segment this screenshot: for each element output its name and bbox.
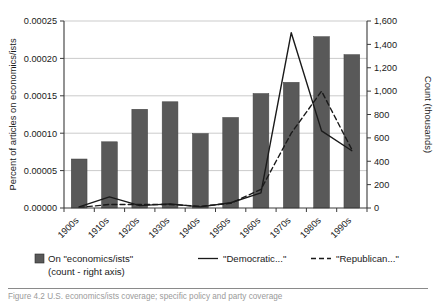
x-category-label: 1920s	[116, 215, 141, 240]
x-category-label: 1990s	[328, 215, 353, 240]
left-axis-ticks: 0.000000.000050.000100.000150.000200.000…	[24, 16, 64, 213]
y-axis-title-right: Count (thousands)	[423, 76, 434, 153]
legend-label-republican: "Republican..."	[336, 253, 399, 264]
bar	[283, 82, 299, 208]
right-tick-label: 1,600	[374, 16, 397, 26]
left-tick-label: 0.00010	[24, 129, 57, 139]
right-tick-label: 200	[374, 180, 389, 190]
x-category-label: 1950s	[207, 215, 232, 240]
left-tick-label: 0.00020	[24, 54, 57, 64]
figure-caption: Figure 4.2 U.S. economics/ists coverage;…	[8, 292, 432, 301]
left-tick-label: 0.00025	[24, 16, 57, 26]
x-category-label: 1980s	[298, 215, 323, 240]
right-tick-label: 1,400	[374, 40, 397, 50]
bar	[132, 109, 148, 208]
bar	[192, 134, 208, 208]
figure-container: 0.000000.000050.000100.000150.000200.000…	[0, 0, 436, 304]
legend: On "economics/ists" (count - right axis)…	[35, 253, 399, 277]
left-tick-label: 0.00015	[24, 91, 57, 101]
right-tick-label: 1,000	[374, 86, 397, 96]
bar	[71, 159, 87, 208]
x-category-label: 1910s	[86, 215, 111, 240]
x-category-label: 1930s	[147, 215, 172, 240]
legend-label-bars-line2: (count - right axis)	[48, 266, 125, 277]
bar	[223, 117, 239, 208]
left-tick-label: 0.00000	[24, 203, 57, 213]
economics-coverage-chart: 0.000000.000050.000100.000150.000200.000…	[0, 0, 436, 304]
right-tick-label: 800	[374, 110, 389, 120]
right-tick-label: 400	[374, 157, 389, 167]
x-category-label: 1970s	[268, 215, 293, 240]
x-axis-ticks: 1900s1910s1920s1930s1940s1950s1960s1970s…	[56, 208, 367, 240]
x-category-label: 1900s	[56, 215, 81, 240]
bar	[162, 102, 178, 208]
y-axis-title-left: Percent of articles on economics/ists	[7, 38, 18, 190]
right-tick-label: 0	[374, 203, 379, 213]
legend-swatch-bar-icon	[35, 254, 44, 263]
x-category-label: 1940s	[177, 215, 202, 240]
bar	[344, 55, 360, 208]
left-tick-label: 0.00005	[24, 166, 57, 176]
bar	[314, 37, 330, 208]
right-tick-label: 1,200	[374, 63, 397, 73]
x-category-label: 1960s	[238, 215, 263, 240]
right-axis-ticks: 02004006008001,0001,2001,4001,600	[367, 16, 397, 213]
legend-label-democratic: "Democratic..."	[223, 253, 286, 264]
caption-divider	[8, 288, 428, 289]
legend-label-bars-line1: On "economics/ists"	[48, 253, 133, 264]
right-tick-label: 600	[374, 133, 389, 143]
